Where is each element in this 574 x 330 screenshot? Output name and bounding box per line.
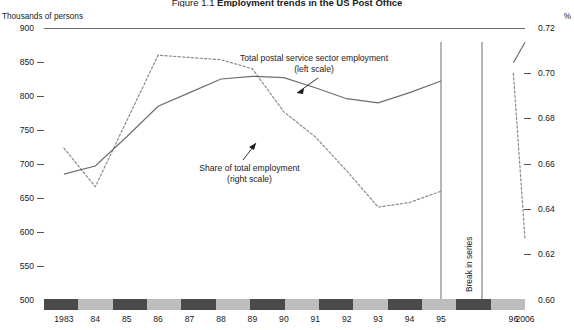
annotation-arrow-series1 — [297, 78, 318, 93]
left-ytick-800: 800 — [8, 91, 34, 101]
x-axis-band-segment — [181, 299, 215, 310]
right-tickmark-068 — [524, 118, 531, 119]
left-tickmark-650 — [37, 198, 44, 199]
annotation-series2-line1: Share of total employment — [177, 163, 322, 174]
x-axis-band-segment — [147, 299, 181, 310]
left-tickmark-750 — [37, 130, 44, 131]
x-axis-band-segment — [78, 299, 112, 310]
x-axis-tick-label-92: 92 — [342, 314, 352, 324]
x-axis-band-segment — [319, 299, 353, 310]
right-axis-unit-label: % — [564, 12, 571, 21]
annotation-arrowhead-series2 — [249, 143, 256, 150]
x-axis-tick-label-1983: 1983 — [54, 314, 73, 324]
figure-number: Figure 1.1 — [172, 0, 215, 7]
right-ytick-060: 0.60 — [538, 295, 570, 305]
x-axis-band-segment — [456, 299, 490, 310]
x-axis-band-segment — [491, 299, 525, 310]
x-axis-tick-label-2006: 2006 — [515, 314, 534, 324]
x-axis-band — [44, 299, 525, 310]
annotation-series1-line2: (left scale) — [224, 64, 404, 75]
left-tickmark-800 — [37, 96, 44, 97]
x-axis-tick-label-89: 89 — [248, 314, 258, 324]
left-ytick-700: 700 — [8, 159, 34, 169]
series-total-postal-employment-line-segment-1 — [64, 76, 441, 174]
annotation-arrow-series2 — [243, 143, 256, 160]
x-axis-band-segment — [285, 299, 319, 310]
right-ytick-062: 0.62 — [538, 249, 570, 259]
annotation-series1: Total postal service sector employment (… — [224, 53, 404, 74]
left-tickmark-850 — [37, 62, 44, 63]
left-ytick-750: 750 — [8, 125, 34, 135]
right-tickmark-070 — [524, 73, 531, 74]
annotation-series1-line1: Total postal service sector employment — [224, 53, 404, 64]
x-axis-tick-label-90: 90 — [279, 314, 289, 324]
x-axis-tick-label-85: 85 — [122, 314, 132, 324]
plot-top-border — [44, 28, 525, 29]
left-tickmark-600 — [37, 232, 44, 233]
right-ytick-066: 0.66 — [538, 159, 570, 169]
left-axis-unit-label: Thousands of persons — [2, 12, 83, 21]
annotation-series2: Share of total employment (right scale) — [177, 163, 322, 184]
left-tickmark-700 — [37, 164, 44, 165]
left-ytick-550: 550 — [8, 261, 34, 271]
x-axis-tick-label-93: 93 — [373, 314, 383, 324]
right-tickmark-066 — [524, 164, 531, 165]
figure-root: Figure 1.1 Employment trends in the US P… — [0, 0, 574, 330]
x-axis-band-segment — [422, 299, 456, 310]
right-tickmark-064 — [524, 209, 531, 210]
x-axis-band-segment — [113, 299, 147, 310]
x-axis-tick-label-95: 95 — [436, 314, 446, 324]
annotation-series2-line2: (right scale) — [177, 174, 322, 185]
left-ytick-500: 500 — [8, 295, 34, 305]
x-axis-tick-label-84: 84 — [91, 314, 101, 324]
break-in-series-label: Break in series — [464, 237, 474, 292]
right-ytick-064: 0.64 — [538, 204, 570, 214]
right-ytick-068: 0.68 — [538, 113, 570, 123]
figure-title: Figure 1.1 Employment trends in the US P… — [0, 0, 574, 7]
left-ytick-650: 650 — [8, 193, 34, 203]
series-total-postal-employment-line-segment-2 — [513, 42, 525, 62]
x-axis-band-segment — [216, 299, 250, 310]
annotation-arrowhead-series1 — [297, 88, 304, 94]
series-share-of-total-employment-line-segment-2 — [513, 73, 525, 239]
x-axis-band-segment — [250, 299, 284, 310]
left-tickmark-550 — [37, 266, 44, 267]
left-ytick-850: 850 — [8, 57, 34, 67]
x-axis-tick-label-87: 87 — [185, 314, 195, 324]
right-ytick-070: 0.70 — [538, 68, 570, 78]
x-axis-tick-label-94: 94 — [405, 314, 415, 324]
x-axis-band-segment — [388, 299, 422, 310]
series-share-of-total-employment-line-segment-1 — [64, 55, 441, 207]
left-ytick-900: 900 — [8, 23, 34, 33]
x-axis-tick-label-86: 86 — [153, 314, 163, 324]
x-axis-band-segment — [353, 299, 387, 310]
figure-title-text: Employment trends in the US Post Office — [217, 0, 402, 7]
left-ytick-600: 600 — [8, 227, 34, 237]
x-axis-tick-label-91: 91 — [311, 314, 321, 324]
x-axis-band-segment — [44, 299, 78, 310]
right-tickmark-062 — [524, 254, 531, 255]
right-ytick-072: 0.72 — [538, 23, 570, 33]
x-axis-tick-label-88: 88 — [216, 314, 226, 324]
